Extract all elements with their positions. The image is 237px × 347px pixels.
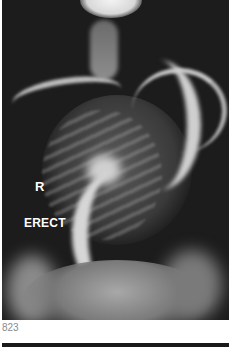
next-image-edge: [2, 343, 229, 347]
figure-number: 823: [2, 322, 19, 333]
position-marker: ERECT: [24, 216, 66, 230]
side-marker: R: [35, 179, 44, 194]
skull-base: [80, 0, 142, 18]
xray-image: R ERECT: [2, 0, 229, 320]
cervical-spine: [90, 20, 118, 80]
